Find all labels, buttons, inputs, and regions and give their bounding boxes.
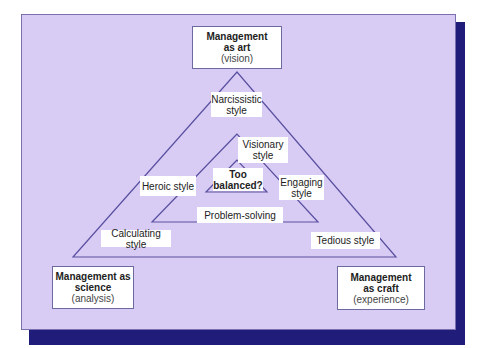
calculating-text: Calculating style	[101, 228, 171, 250]
too-balanced-line2: balanced?	[213, 180, 262, 191]
corner-art-title2: as art	[224, 42, 251, 53]
heroic-text: Heroic style	[142, 181, 194, 192]
narcissistic-line2: style	[226, 105, 247, 116]
corner-science-title1: Management as	[55, 271, 130, 282]
label-problem-solving: Problem-solving	[197, 207, 283, 223]
corner-science-subtitle: (analysis)	[72, 293, 115, 304]
problem-solving-text: Problem-solving	[204, 210, 276, 221]
corner-art-title1: Management	[206, 31, 267, 42]
too-balanced-line1: Too	[229, 169, 247, 180]
tedious-text: Tedious style	[317, 235, 375, 246]
label-too-balanced: Too balanced?	[213, 168, 263, 191]
label-calculating: Calculating style	[101, 230, 171, 247]
label-engaging: Engaging style	[279, 175, 324, 200]
visionary-line1: Visionary	[243, 139, 284, 150]
label-tedious: Tedious style	[311, 232, 380, 249]
engaging-line2: style	[291, 188, 312, 199]
corner-craft-title1: Management	[350, 272, 411, 283]
engaging-line1: Engaging	[280, 177, 322, 188]
corner-art: Management as art (vision)	[192, 26, 282, 69]
visionary-line2: style	[253, 150, 274, 161]
narcissistic-line1: Narcissistic	[211, 94, 262, 105]
corner-craft: Management as craft (experience)	[337, 266, 425, 310]
label-narcissistic: Narcissistic style	[211, 92, 262, 117]
label-heroic: Heroic style	[140, 176, 196, 196]
corner-craft-title2: as craft	[363, 283, 399, 294]
label-visionary: Visionary style	[238, 137, 288, 163]
corner-craft-subtitle: (experience)	[353, 294, 409, 305]
corner-science-title2: science	[75, 282, 112, 293]
corner-science: Management as science (analysis)	[52, 266, 134, 309]
corner-art-subtitle: (vision)	[221, 53, 253, 64]
